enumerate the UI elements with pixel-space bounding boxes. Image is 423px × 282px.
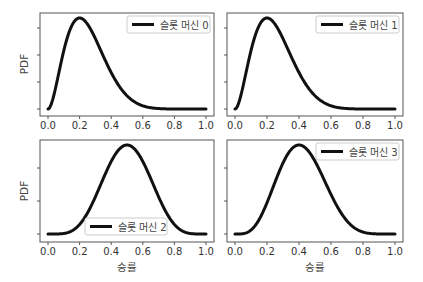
legend-label: 슬롯 머신 0: [160, 20, 209, 31]
x-tick-label: 0.4: [103, 246, 119, 257]
y-axis-label: PDF: [18, 54, 30, 74]
x-tick-label: 0.2: [72, 246, 88, 257]
legend: 슬롯 머신 2: [85, 218, 167, 235]
x-tick-label: 0.2: [259, 246, 275, 257]
x-tick-label: 0.8: [166, 246, 182, 257]
x-axis-label: 승률: [117, 261, 137, 273]
legend-label: 슬롯 머신 3: [349, 147, 398, 158]
x-tick-label: 0.6: [323, 120, 339, 131]
subplot-top-left: 0.00.20.40.60.81.0 슬롯 머신 0 PDF: [18, 13, 214, 131]
legend: 슬롯 머신 1: [316, 16, 399, 33]
subplot-bottom-left: 0.00.20.40.60.81.0 슬롯 머신 2 PDF 승률: [18, 140, 214, 273]
x-axis-label: 승률: [305, 261, 325, 273]
x-tick-label: 1.0: [387, 120, 403, 131]
x-tick-label: 0.4: [291, 120, 307, 131]
x-ticks: 0.00.20.40.60.81.0: [227, 242, 403, 257]
x-ticks: 0.00.20.40.60.81.0: [40, 116, 214, 131]
x-tick-label: 0.6: [135, 120, 151, 131]
x-tick-label: 0.6: [135, 246, 151, 257]
x-tick-label: 1.0: [198, 120, 214, 131]
subplot-bottom-right: 0.00.20.40.60.81.0 슬롯 머신 3 승률: [224, 140, 403, 273]
x-tick-label: 0.8: [166, 120, 182, 131]
legend-label: 슬롯 머신 1: [349, 20, 398, 31]
x-tick-label: 1.0: [198, 246, 214, 257]
x-tick-label: 0.2: [72, 120, 88, 131]
x-tick-label: 0.6: [323, 246, 339, 257]
x-tick-label: 0.8: [355, 246, 371, 257]
x-tick-label: 0.0: [227, 120, 243, 131]
x-tick-label: 0.0: [40, 246, 56, 257]
x-tick-label: 0.4: [291, 246, 307, 257]
x-tick-label: 0.2: [259, 120, 275, 131]
x-tick-label: 0.8: [355, 120, 371, 131]
x-tick-label: 0.0: [227, 246, 243, 257]
x-tick-label: 1.0: [387, 246, 403, 257]
x-ticks: 0.00.20.40.60.81.0: [227, 116, 403, 131]
legend-label: 슬롯 머신 2: [118, 222, 167, 233]
legend: 슬롯 머신 0: [127, 16, 210, 33]
x-tick-label: 0.0: [40, 120, 56, 131]
y-axis-label: PDF: [18, 181, 30, 201]
figure: 0.00.20.40.60.81.0 슬롯 머신 0 PDF 0.00.20.4…: [0, 0, 423, 282]
x-tick-label: 0.4: [103, 120, 119, 131]
x-ticks: 0.00.20.40.60.81.0: [40, 242, 214, 257]
legend: 슬롯 머신 3: [316, 143, 399, 160]
subplot-top-right: 0.00.20.40.60.81.0 슬롯 머신 1: [224, 13, 403, 131]
